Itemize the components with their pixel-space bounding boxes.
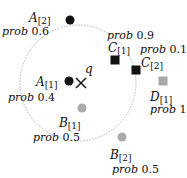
object-B2-name: B[2] <box>110 149 132 164</box>
object-B1-circle-marker <box>78 104 87 113</box>
object-B2-circle-marker <box>118 133 127 142</box>
object-C1-probability: prob 0.9 <box>107 30 154 42</box>
object-B1-probability: prob 0.5 <box>33 132 80 144</box>
object-A2-probability: prob 0.6 <box>2 26 49 38</box>
object-B1-name: B[1] <box>59 117 81 132</box>
query-point-cross-icon <box>76 78 86 88</box>
object-C2-probability: prob 0.1 <box>140 44 187 56</box>
object-C2-name: C[2] <box>141 57 163 72</box>
object-C2-square-marker <box>132 66 141 75</box>
query-label: q <box>85 63 93 75</box>
object-A2-circle-marker <box>66 16 75 25</box>
object-D1-probability: prob 1 <box>150 104 186 116</box>
object-B2-probability: prob 0.5 <box>112 164 159 176</box>
object-C1-name: C[1] <box>108 42 130 57</box>
object-A1-circle-marker <box>65 77 74 86</box>
object-A1-name: A[1] <box>36 76 57 91</box>
uncertain-range-query-diagram: q A[2]prob 0.6A[1]prob 0.4B[1]prob 0.5B[… <box>0 0 187 178</box>
object-D1-square-marker <box>159 77 168 86</box>
object-A1-probability: prob 0.4 <box>8 92 55 104</box>
